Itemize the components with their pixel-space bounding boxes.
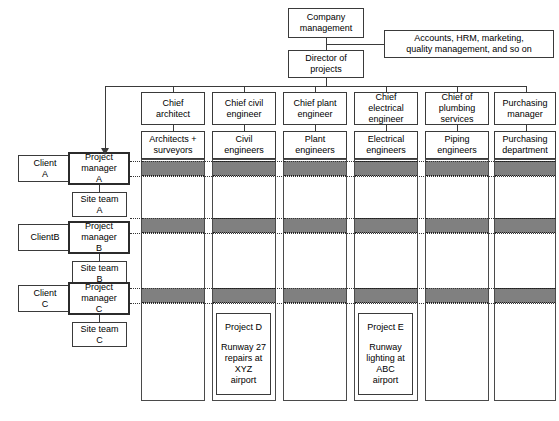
project-band-b-col-6: [495, 218, 555, 233]
project-card-e-description: Runway lighting at ABC airport: [366, 342, 405, 386]
project-band-b-col-5: [426, 218, 488, 233]
project-band-c-col-3: [284, 288, 346, 303]
project-band-b-col-4: [355, 218, 417, 233]
org-chart-diagram: Company management Director of projects …: [0, 0, 559, 421]
box-company-management: Company management: [288, 8, 364, 38]
connector-director-to-bus: [326, 78, 327, 86]
project-card-d-description: Runway 27 repairs at XYZ airport: [221, 342, 266, 386]
project-card-d-title: Project D: [225, 322, 262, 333]
box-chief-6: Purchasing manager: [494, 92, 556, 125]
box-project-manager-a: Project manager A: [68, 152, 130, 185]
box-chief-5: Chief of plumbing services: [425, 92, 489, 125]
department-column-5: [425, 159, 489, 401]
project-band-a-col-3: [284, 161, 346, 176]
leader-band-c-top: [130, 288, 556, 289]
project-band-c-col-1: [142, 288, 204, 303]
project-band-b-col-2: [213, 218, 275, 233]
box-staff-6: Purchasing department: [494, 131, 556, 159]
box-client-b: ClientB: [18, 224, 72, 251]
project-band-c-col-2: [213, 288, 275, 303]
arrow-to-project-manager-a: [101, 148, 109, 155]
box-chief-1: Chief architect: [141, 92, 205, 125]
connector-company-to-support: [326, 44, 384, 45]
department-column-6: [494, 159, 556, 401]
project-card-e-title: Project E: [367, 322, 404, 333]
connector-manager-a-to-site-team: [99, 185, 100, 192]
box-project-manager-b: Project manager B: [68, 221, 130, 254]
connector-manager-b-to-site-team: [99, 254, 100, 261]
department-column-3: [283, 159, 347, 401]
project-band-b-col-1: [142, 218, 204, 233]
box-staff-5: Piping engineers: [425, 131, 489, 159]
box-chief-3: Chief plant engineer: [283, 92, 347, 125]
project-band-a-col-1: [142, 161, 204, 176]
box-support-functions: Accounts, HRM, marketing, quality manage…: [384, 30, 554, 58]
project-band-b-col-3: [284, 218, 346, 233]
project-band-c-col-6: [495, 288, 555, 303]
leader-band-b-bottom: [130, 233, 556, 234]
leader-band-a-top: [130, 161, 556, 162]
leader-band-b-top: [130, 218, 556, 219]
box-project-manager-c: Project manager C: [68, 282, 130, 315]
box-staff-3: Plant engineers: [283, 131, 347, 159]
project-band-a-col-6: [495, 161, 555, 176]
box-site-team-a: Site team A: [72, 192, 127, 217]
project-band-a-col-2: [213, 161, 275, 176]
bus-branch-to-project-managers: [105, 86, 106, 150]
project-band-c-col-5: [426, 288, 488, 303]
box-staff-4: Electrical engineers: [354, 131, 418, 159]
project-card-e: Project E Runway lighting at ABC airport: [358, 313, 413, 395]
box-site-team-c: Site team C: [72, 322, 127, 347]
box-client-a: Client A: [18, 155, 72, 182]
box-staff-1: Architects + surveyors: [141, 131, 205, 159]
box-chief-4: Chief electrical engineer: [354, 92, 418, 125]
project-band-c-col-4: [355, 288, 417, 303]
box-client-c: Client C: [18, 285, 72, 312]
box-chief-2: Chief civil engineer: [212, 92, 276, 125]
leader-band-a-bottom: [130, 176, 556, 177]
box-staff-2: Civil engineers: [212, 131, 276, 159]
department-column-1: [141, 159, 205, 401]
connector-manager-c-to-site-team: [99, 315, 100, 322]
box-director-of-projects: Director of projects: [288, 50, 364, 78]
project-card-d: Project D Runway 27 repairs at XYZ airpo…: [216, 313, 271, 395]
project-band-a-col-4: [355, 161, 417, 176]
project-band-a-col-5: [426, 161, 488, 176]
leader-band-c-bottom: [130, 303, 556, 304]
